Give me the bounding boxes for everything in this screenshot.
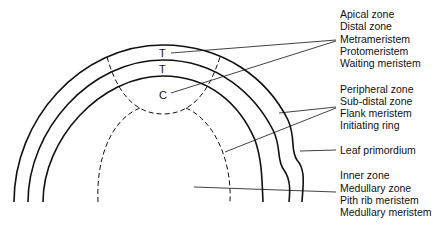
leader-inner — [194, 187, 336, 192]
label-flank-meristem: Flank meristem — [340, 107, 412, 119]
leader-leaf — [300, 150, 336, 151]
meristem-diagram: T T C Apical zone Distal zone Metrameris… — [0, 0, 434, 228]
label-waiting-meristem: Waiting meristem — [340, 57, 421, 69]
label-pith-rib-meristem: Pith rib meristem — [340, 194, 419, 206]
label-sub-distal-zone: Sub-distal zone — [340, 95, 413, 107]
label-group-apical: Apical zone Distal zone Metrameristem Pr… — [340, 8, 421, 69]
label-metrameristem: Metrameristem — [340, 33, 410, 45]
label-apical-zone: Apical zone — [340, 8, 394, 20]
label-leaf-primordium: Leaf primordium — [340, 144, 416, 156]
label-protomeristem: Protomeristem — [340, 45, 409, 57]
label-distal-zone: Distal zone — [340, 20, 392, 32]
label-initiating-ring: Initiating ring — [340, 119, 400, 131]
label-medullary-zone: Medullary zone — [340, 182, 411, 194]
corpus-label: C — [159, 89, 167, 101]
tunica-inner-label: T — [159, 63, 166, 75]
label-inner-zone: Inner zone — [340, 169, 390, 181]
leader-peripheral-a — [279, 107, 336, 113]
leader-tunica-apical — [171, 40, 336, 53]
zone-boundaries — [98, 57, 230, 202]
tunica-outer-label: T — [159, 47, 166, 59]
leader-lines — [171, 40, 336, 192]
label-peripheral-zone: Peripheral zone — [340, 83, 414, 95]
label-medullary-meristem: Medullary meristem — [340, 206, 432, 218]
label-group-peripheral: Peripheral zone Sub-distal zone Flank me… — [340, 83, 414, 131]
label-group-inner: Inner zone Medullary zone Pith rib meris… — [340, 169, 432, 218]
label-group-leaf: Leaf primordium — [340, 144, 416, 156]
leader-peripheral-b — [225, 108, 336, 152]
